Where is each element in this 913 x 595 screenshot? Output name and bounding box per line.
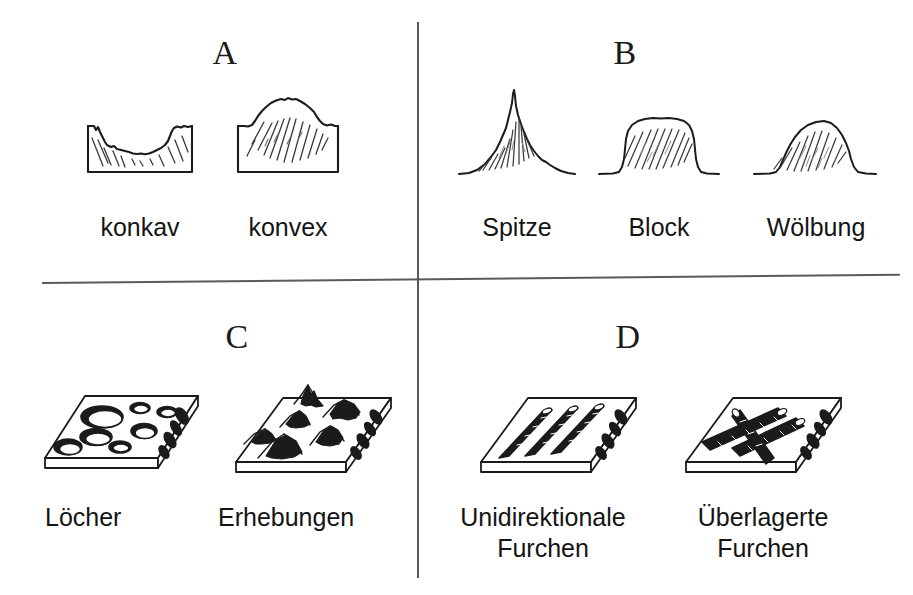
figure-label-ueberlagerte-furchen: Überlagerte Furchen [668,502,858,563]
figure-label-loecher: Löcher [45,502,185,533]
horizontal-divider [42,274,900,284]
convex-profile-cross-section [230,92,346,180]
figure-root: A konkav [0,0,913,595]
figure-label-erhebungen: Erhebungen [218,502,398,533]
panel-letter-b: B [605,36,645,70]
plate-with-holes [40,388,205,488]
plate-with-bumps [228,380,398,490]
figure-label-spitze: Spitze [457,212,577,243]
plate-with-crossed-grooves [678,380,848,490]
dome-profile [750,110,880,180]
figure-label-block: Block [599,212,719,243]
figure-label-konkav: konkav [80,212,200,243]
panel-letter-a: A [205,36,245,70]
vertical-divider [417,22,419,578]
figure-label-woelbung: Wölbung [753,212,879,243]
plate-with-parallel-grooves [473,380,643,490]
panel-letter-c: C [217,320,257,354]
panel-letter-d: D [608,320,648,354]
peak-profile [455,84,579,180]
figure-label-unidirektionale-furchen: Unidirektionale Furchen [443,502,643,563]
block-profile [595,110,723,180]
figure-label-konvex: konvex [228,212,348,243]
concave-profile-cross-section [80,118,200,180]
